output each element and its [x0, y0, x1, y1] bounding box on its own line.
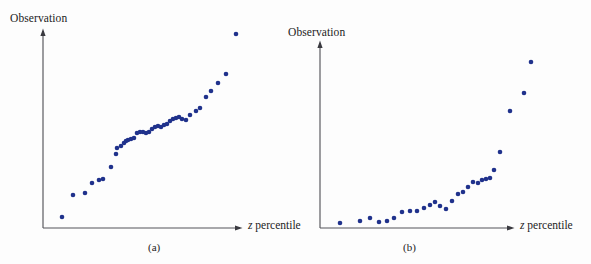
- data-point: [461, 190, 466, 195]
- panel-b-x-axis-arrow-icon: [507, 225, 515, 230]
- data-point: [198, 106, 203, 111]
- panel-a-x-axis-arrow-icon: [235, 225, 243, 230]
- data-point: [216, 81, 221, 86]
- data-point: [508, 109, 513, 114]
- panel-b-axes: [317, 41, 514, 231]
- data-point: [400, 210, 405, 215]
- panel-a-axes: [40, 29, 242, 231]
- data-point: [209, 89, 214, 94]
- panel-a-caption: (a): [148, 241, 160, 253]
- data-point: [71, 193, 76, 198]
- data-point: [114, 152, 119, 157]
- data-point: [204, 95, 209, 100]
- data-point: [450, 199, 455, 204]
- data-point: [476, 181, 481, 186]
- data-point: [188, 113, 193, 118]
- data-point: [377, 220, 382, 225]
- data-point: [480, 178, 485, 183]
- data-point: [422, 206, 427, 211]
- panel-b-x-axis-label-text: percentile: [524, 219, 572, 231]
- panel-b: Observation z percentile (b): [280, 0, 591, 264]
- data-point: [338, 221, 343, 226]
- data-point: [444, 207, 449, 212]
- data-point: [492, 168, 497, 173]
- data-point: [408, 209, 413, 214]
- data-point: [101, 177, 106, 182]
- panel-a-data-points: [60, 32, 239, 220]
- panel-a-y-axis-arrow-icon: [40, 29, 45, 37]
- data-point: [224, 72, 229, 77]
- data-point: [428, 203, 433, 208]
- data-point: [97, 178, 102, 183]
- panel-b-data-points: [338, 60, 534, 226]
- data-point: [180, 117, 185, 122]
- panel-b-x-axis-label: z percentile: [520, 219, 573, 231]
- panel-b-caption: (b): [403, 241, 416, 253]
- data-point: [234, 32, 239, 37]
- data-point: [385, 219, 390, 224]
- data-point: [498, 150, 503, 155]
- data-point: [90, 181, 95, 186]
- data-point: [358, 219, 363, 224]
- data-point: [60, 215, 65, 220]
- data-point: [456, 192, 461, 197]
- data-point: [433, 200, 438, 205]
- data-point: [471, 180, 476, 185]
- data-point: [184, 118, 189, 123]
- panel-b-y-axis-arrow-icon: [317, 41, 322, 49]
- data-point: [466, 185, 471, 190]
- data-point: [392, 216, 397, 221]
- data-point: [484, 177, 489, 182]
- figure-normal-probability-plots: Observation z percentile (a) Observation: [0, 0, 591, 264]
- panel-a: Observation z percentile (a): [0, 0, 296, 264]
- data-point: [115, 146, 120, 151]
- data-point: [194, 109, 199, 114]
- data-point: [522, 91, 527, 96]
- data-point: [438, 204, 443, 209]
- data-point: [488, 176, 493, 181]
- data-point: [132, 136, 137, 141]
- data-point: [109, 165, 114, 170]
- data-point: [415, 209, 420, 214]
- data-point: [368, 216, 373, 221]
- data-point: [83, 191, 88, 196]
- data-point: [529, 60, 534, 65]
